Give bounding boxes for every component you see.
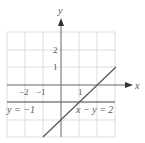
x-tick-neg1: −1 [36, 87, 46, 97]
y-axis-label: y [57, 5, 63, 16]
x-tick-1: 1 [78, 87, 83, 97]
x-axis-arrow-icon [125, 82, 133, 88]
label-y-equals-neg1: y = −1 [6, 104, 35, 115]
y-tick-1: 1 [53, 62, 58, 72]
y-axis-arrow-icon [58, 18, 64, 26]
label-x-minus-y-equals-2: x − y = 2 [75, 104, 113, 115]
y-tick-2: 2 [53, 45, 58, 55]
x-tick-neg2: −2 [19, 87, 29, 97]
coordinate-graph: y x 2 1 −2 −1 1 y = −1 x − y = 2 [0, 0, 145, 143]
x-axis-label: x [134, 80, 140, 91]
